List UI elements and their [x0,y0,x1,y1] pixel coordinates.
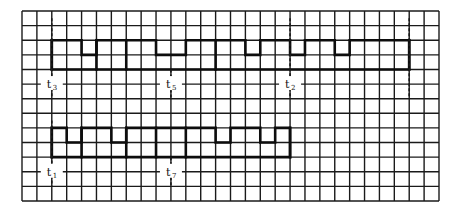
marker-label: t [166,78,171,91]
time-marker-t2: t2 [279,18,301,98]
marker-label: t [166,166,171,179]
marker-label: t [47,166,52,179]
marker-label-subscript: 3 [53,84,57,92]
marker-label-subscript: 5 [172,84,176,92]
label-background [160,164,182,178]
marker-label: t [47,78,52,91]
marker-label-subscript: 1 [53,172,57,180]
time-marker-t3: t3 [41,18,63,98]
label-background [160,76,182,90]
marker-label-subscript: 7 [172,172,176,180]
label-background [41,164,63,178]
marker-label-subscript: 2 [291,84,295,92]
label-background [279,76,301,90]
marker-label: t [285,78,290,91]
timing-diagram: t3t5t2t1t7 [0,0,460,215]
label-background [41,76,63,90]
